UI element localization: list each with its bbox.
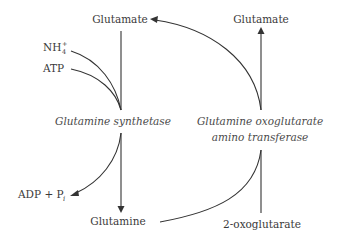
glutamine-cycle-diagram: Glutamate Glutamate NH + 4 ATP Glutamine… [0, 0, 339, 244]
atp-to-synthetase-curve [71, 69, 121, 110]
glutamine-synthetase-label: Glutamine synthetase [55, 115, 171, 127]
synthetase-to-adp-curve [76, 133, 121, 193]
glutamine-label: Glutamine [90, 215, 145, 227]
oxoglutarate-label: 2-oxoglutarate [223, 218, 301, 230]
adp-pi-label: ADP + P i [17, 188, 65, 203]
svg-text:i: i [63, 195, 65, 203]
glutamate-left-arrowhead-icon [150, 16, 158, 23]
transferase-to-glutamate-left-curve [155, 20, 261, 110]
nh4-to-synthetase-curve [71, 51, 121, 110]
svg-text:+: + [62, 40, 67, 48]
svg-text:4: 4 [62, 48, 66, 56]
nh4-label: NH + 4 [43, 40, 67, 56]
transferase-label-line2: amino transferase [212, 131, 309, 143]
glutamate-right-label: Glutamate [233, 13, 289, 25]
svg-text:ADP + P: ADP + P [17, 188, 64, 200]
glutamate-right-arrowhead-icon [258, 27, 265, 34]
transferase-label-line1: Glutamine oxoglutarate [197, 115, 323, 127]
atp-label: ATP [42, 62, 64, 74]
svg-text:NH: NH [43, 41, 61, 53]
glutamine-to-transferase-curve [160, 150, 261, 222]
adp-arrowhead-icon [70, 190, 79, 196]
glutamate-left-label: Glutamate [92, 13, 148, 25]
glutamine-arrowhead-icon [118, 206, 125, 213]
